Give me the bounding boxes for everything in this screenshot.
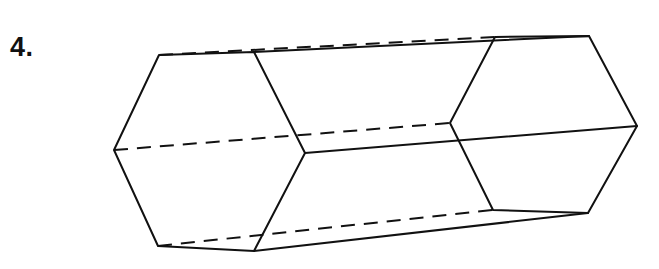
- hidden-edge-top-left: [159, 37, 495, 55]
- back-hexagon-face: [450, 36, 637, 213]
- hexagonal-prism-figure: [0, 0, 659, 269]
- hidden-edge-bottom-left: [158, 210, 493, 246]
- lateral-edge-top-right: [254, 36, 589, 52]
- front-hexagon-face: [114, 52, 305, 251]
- visible-lateral-edges: [254, 36, 637, 251]
